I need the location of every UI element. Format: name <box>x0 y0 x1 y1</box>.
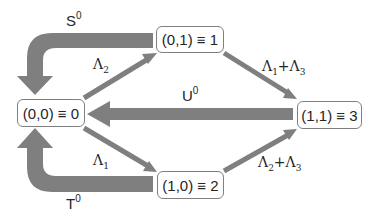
label-s0: S0 <box>66 11 82 29</box>
state-transition-diagram: (0,0) ≡ 0 (0,1) ≡ 1 (1,0) ≡ 2 (1,1) ≡ 3 … <box>0 0 377 220</box>
label-lambda1-plus-lambda3: Λ1+Λ3 <box>262 58 305 77</box>
state-box-1-1: (1,1) ≡ 3 <box>297 101 362 129</box>
label-lambda2-base: Λ <box>93 56 103 72</box>
label-u0: U0 <box>182 86 198 104</box>
label-t0-base: T <box>66 195 75 212</box>
label-lambda1-sub: 1 <box>103 161 109 171</box>
arrow-t0 <box>17 128 153 192</box>
label-t0-sup: 0 <box>75 193 81 204</box>
arrow-u0 <box>87 101 293 127</box>
label-s0-base: S <box>66 12 76 29</box>
state-box-0-1: (0,1) ≡ 1 <box>156 26 224 53</box>
label-t0: T0 <box>66 194 81 212</box>
label-l23-plus: + <box>274 154 286 170</box>
label-lambda2-plus-lambda3: Λ2+Λ3 <box>258 154 301 173</box>
label-u0-sup: 0 <box>193 85 199 96</box>
label-l23-a: Λ <box>258 154 268 170</box>
label-lambda1: Λ1 <box>93 152 109 171</box>
label-u0-base: U <box>182 87 193 104</box>
label-l13-b: Λ <box>290 58 300 74</box>
label-lambda2-sub: 2 <box>103 65 109 75</box>
label-l13-b-sub: 3 <box>300 67 306 77</box>
state-box-0-0: (0,0) ≡ 0 <box>17 99 85 127</box>
label-l13-a: Λ <box>262 58 272 74</box>
label-l23-b-sub: 3 <box>296 163 302 173</box>
label-lambda2: Λ2 <box>93 56 109 75</box>
label-s0-sup: 0 <box>76 10 82 21</box>
label-lambda1-base: Λ <box>93 152 103 168</box>
arrow-s0 <box>17 33 153 95</box>
label-l23-b: Λ <box>286 154 296 170</box>
label-l13-plus: + <box>278 58 290 74</box>
state-box-1-0: (1,0) ≡ 2 <box>157 171 224 199</box>
